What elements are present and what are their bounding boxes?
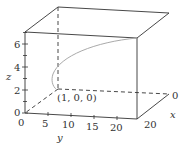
y-tick-0: 0 — [18, 117, 24, 128]
z-tick-6: 6 — [14, 39, 20, 50]
x-axis-label: x — [170, 109, 176, 120]
x-tick-0: 0 — [172, 90, 178, 101]
y-axis-label: y — [56, 132, 63, 143]
z-tick-2: 2 — [14, 85, 20, 96]
y-tick-15: 15 — [86, 121, 99, 132]
z-axis-label: z — [5, 71, 12, 82]
box-edges — [25, 7, 169, 119]
curve-line — [52, 38, 137, 90]
point-annotation: (1, 0, 0) — [57, 92, 97, 103]
z-tick-4: 4 — [14, 62, 20, 73]
hidden-edges — [25, 7, 169, 113]
3d-plot: 0 2 4 6 z 0 5 10 15 20 y 0 20 x (1, 0, 0… — [0, 0, 181, 146]
x-tick-20: 20 — [144, 119, 157, 130]
y-tick-10: 10 — [62, 119, 75, 130]
y-tick-20: 20 — [110, 122, 123, 133]
y-tick-5: 5 — [42, 118, 48, 129]
